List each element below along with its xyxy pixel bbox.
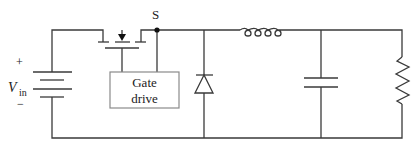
gate-drive-block: Gate drive	[110, 72, 179, 108]
mosfet-switch	[98, 30, 146, 72]
load-resistor	[396, 57, 409, 104]
wire-ground-return	[52, 97, 402, 138]
wire-vin-to-drain	[52, 30, 103, 72]
vin-symbol: V	[8, 80, 18, 95]
wire-inductor-to-load	[283, 30, 402, 57]
vin-minus-label: −	[17, 97, 24, 111]
diode-triangle-icon	[195, 75, 213, 93]
gate-drive-label-line1: Gate	[132, 75, 157, 90]
inductor-coil	[240, 29, 283, 37]
switch-node-label: S	[152, 7, 159, 22]
battery-vin	[33, 72, 72, 97]
wires	[52, 30, 402, 138]
switch-node-dot	[154, 27, 159, 32]
buck-converter-schematic: S + V in − Gate drive	[0, 0, 412, 144]
vin-plus-label: +	[16, 55, 23, 69]
output-capacitor	[304, 78, 338, 87]
freewheel-diode	[195, 75, 213, 93]
gate-drive-label-line2: drive	[131, 91, 158, 106]
mosfet-arrow-icon	[118, 34, 126, 41]
